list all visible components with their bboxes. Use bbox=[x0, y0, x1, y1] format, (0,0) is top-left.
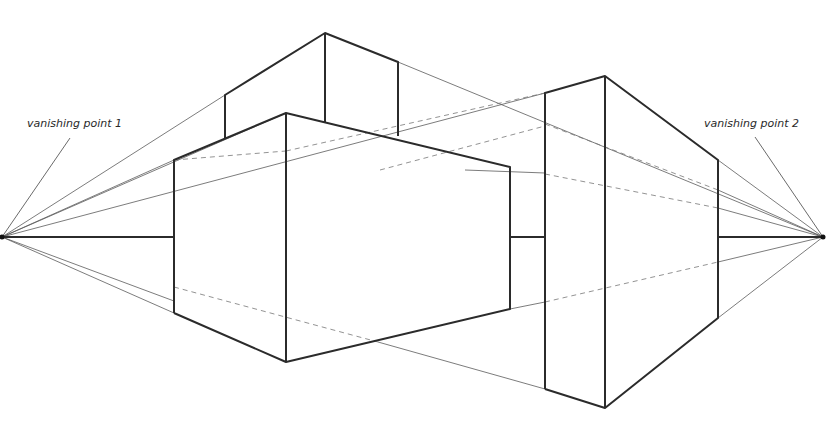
vanishing-point-2-label: vanishing point 2 bbox=[704, 117, 799, 130]
vanishing-point-1-marker bbox=[0, 235, 5, 240]
perspective-diagram: vanishing point 1 vanishing point 2 bbox=[0, 0, 826, 430]
construction-lines bbox=[2, 62, 823, 389]
vanishing-point-2-marker bbox=[821, 235, 826, 240]
leader-lines bbox=[2, 137, 823, 237]
perspective-drawing bbox=[0, 0, 826, 430]
hidden-lines bbox=[174, 93, 718, 342]
vanishing-point-1-label: vanishing point 1 bbox=[27, 117, 122, 130]
